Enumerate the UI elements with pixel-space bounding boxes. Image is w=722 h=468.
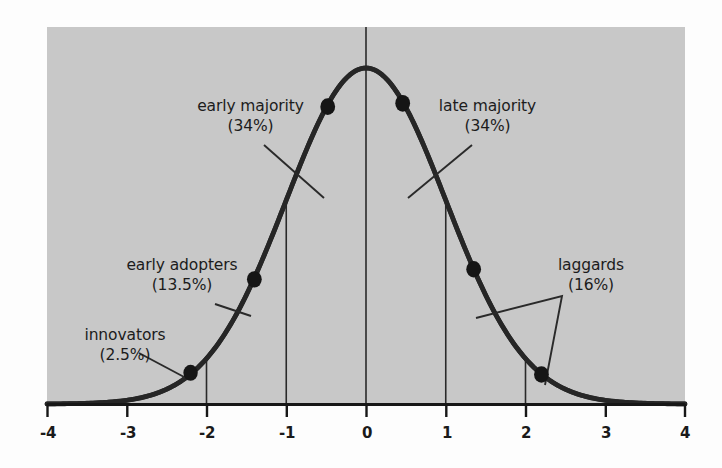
- diffusion-of-innovation-chart: early majority (34%) late majority (34%)…: [0, 0, 722, 468]
- annotation-innovators-name: innovators: [84, 326, 165, 344]
- annotation-late-majority-name: late majority: [439, 97, 536, 115]
- x-tick-label-minus1: -1: [272, 424, 302, 442]
- marker-dot-laggards-left: [466, 261, 481, 277]
- bell-curve-plot: [0, 0, 722, 468]
- x-tick-label-plus1: 1: [432, 424, 462, 442]
- marker-dot-innovators: [183, 365, 197, 381]
- x-tick-label-minus2: -2: [192, 424, 222, 442]
- annotation-early-majority-name: early majority: [197, 97, 304, 115]
- annotation-late-majority-percent: (34%): [405, 117, 570, 137]
- annotation-early-adopters-percent: (13.5%): [92, 276, 272, 296]
- x-tick-label-plus4: 4: [670, 424, 700, 442]
- annotation-innovators: innovators (2.5%): [55, 326, 195, 366]
- annotation-early-adopters: early adopters (13.5%): [92, 256, 272, 296]
- x-tick-label-plus2: 2: [511, 424, 541, 442]
- x-tick-label-minus3: -3: [113, 424, 143, 442]
- annotation-innovators-percent: (2.5%): [55, 346, 195, 366]
- annotation-early-adopters-name: early adopters: [126, 256, 237, 274]
- marker-dot-laggards-right: [534, 366, 549, 382]
- annotation-laggards-name: laggards: [558, 256, 624, 274]
- annotation-laggards-percent: (16%): [526, 276, 656, 296]
- x-tick-label-zero: 0: [352, 424, 382, 442]
- annotation-early-majority: early majority (34%): [163, 97, 338, 137]
- x-tick-label-plus3: 3: [591, 424, 621, 442]
- annotation-laggards: laggards (16%): [526, 256, 656, 296]
- annotation-late-majority: late majority (34%): [405, 97, 570, 137]
- x-tick-label-minus4: -4: [33, 424, 63, 442]
- annotation-early-majority-percent: (34%): [163, 117, 338, 137]
